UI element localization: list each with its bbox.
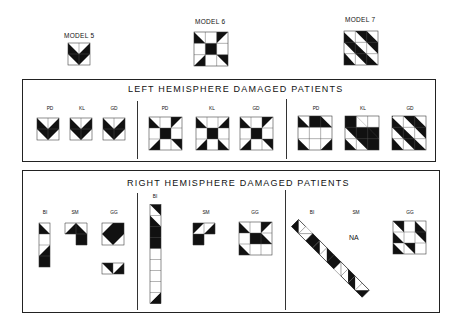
left-m6-pd-design bbox=[149, 117, 182, 150]
model-6-design bbox=[194, 32, 228, 66]
left-m5-pd-label: PD bbox=[40, 106, 60, 111]
right-m7-bi-design bbox=[290, 221, 366, 301]
right-m7-gg-label: GG bbox=[400, 210, 420, 215]
left-m7-kl-design bbox=[345, 116, 379, 150]
left-m5-gd-label: GD bbox=[104, 106, 124, 111]
right-m5-bi-label: BI bbox=[35, 210, 55, 215]
right-m5-gg-extra-design bbox=[102, 263, 124, 274]
right-panel-title: RIGHT HEMISPHERE DAMAGED PATIENTS bbox=[127, 178, 350, 188]
right-m5-gg-label: GG bbox=[104, 210, 124, 215]
left-m6-gd-design bbox=[240, 117, 273, 150]
model-7-design bbox=[344, 31, 378, 65]
model-7-label: MODEL 7 bbox=[345, 16, 375, 23]
left-m5-pd-design bbox=[37, 118, 59, 140]
right-m6-bi-design bbox=[150, 204, 161, 304]
left-m5-gd-design bbox=[103, 118, 125, 140]
right-m5-sm-label: SM bbox=[65, 210, 85, 215]
left-divider-1 bbox=[137, 101, 138, 159]
right-m6-gg-label: GG bbox=[245, 210, 265, 215]
left-m7-gd-label: GD bbox=[400, 106, 420, 111]
right-divider-1 bbox=[137, 193, 138, 310]
left-m7-pd-label: PD bbox=[306, 106, 326, 111]
right-m7-gg-design bbox=[393, 221, 426, 254]
left-m7-pd-design bbox=[298, 116, 332, 150]
left-m6-pd-label: PD bbox=[155, 106, 175, 111]
left-divider-2 bbox=[286, 99, 287, 159]
left-m6-kl-design bbox=[196, 117, 229, 150]
left-panel-title: LEFT HEMISPHERE DAMAGED PATIENTS bbox=[128, 84, 343, 94]
right-m6-gg-design bbox=[239, 222, 272, 255]
model-5-label: MODEL 5 bbox=[64, 32, 94, 39]
right-m6-bi-label: BI bbox=[145, 194, 165, 199]
right-m5-sm-design bbox=[65, 223, 87, 245]
right-m7-bi-label: BI bbox=[302, 210, 322, 215]
right-m6-sm-design bbox=[193, 223, 215, 245]
left-m7-gd-design bbox=[392, 116, 426, 150]
left-m7-kl-label: KL bbox=[353, 106, 373, 111]
left-m5-kl-design bbox=[70, 118, 92, 140]
model-6-label: MODEL 6 bbox=[195, 18, 225, 25]
model-5-design bbox=[68, 43, 90, 65]
right-m5-gg-design bbox=[102, 223, 124, 245]
right-m6-sm-label: SM bbox=[196, 210, 216, 215]
left-m6-kl-label: KL bbox=[202, 106, 222, 111]
left-m5-kl-label: KL bbox=[72, 106, 92, 111]
left-m6-gd-label: GD bbox=[246, 106, 266, 111]
right-m5-bi-design bbox=[39, 223, 50, 267]
right-m7-sm-label: SM bbox=[346, 210, 366, 215]
right-divider-2 bbox=[285, 190, 286, 310]
